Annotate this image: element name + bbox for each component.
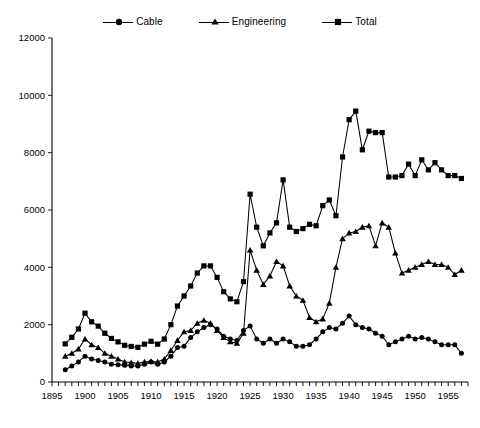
data-point (347, 117, 352, 122)
data-point (267, 230, 272, 235)
data-point (372, 243, 379, 249)
data-point (452, 342, 457, 347)
data-point (194, 320, 201, 326)
data-point (135, 345, 140, 350)
data-point (115, 356, 122, 362)
data-point (399, 270, 406, 276)
data-point (426, 337, 431, 342)
data-point (373, 130, 378, 135)
series-line-total (65, 111, 461, 347)
data-point (446, 173, 451, 178)
y-axis: 020004000600080001000012000 (19, 32, 52, 387)
data-point (459, 176, 464, 181)
data-point (313, 319, 320, 325)
data-point (326, 300, 333, 306)
series-total (63, 109, 464, 350)
data-point (399, 173, 404, 178)
x-tick-label: 1910 (140, 390, 161, 401)
data-point (320, 329, 325, 334)
data-point (76, 359, 81, 364)
y-tick-label: 10000 (19, 90, 45, 101)
data-point (380, 334, 385, 339)
data-point (109, 336, 114, 341)
data-point (379, 220, 386, 226)
data-point (63, 341, 68, 346)
data-series-group (62, 109, 465, 373)
data-point (333, 326, 338, 331)
data-point (155, 342, 160, 347)
data-point (413, 337, 418, 342)
x-tick-label: 1930 (273, 390, 294, 401)
data-point (96, 358, 101, 363)
y-tick-label: 12000 (19, 32, 45, 43)
data-point (366, 223, 373, 229)
x-axis: 1895190019051910191519201925193019351940… (41, 382, 468, 401)
data-point (261, 341, 266, 346)
data-point (82, 336, 89, 342)
data-point (69, 350, 76, 356)
data-point (432, 339, 437, 344)
data-point (175, 303, 180, 308)
data-point (300, 297, 307, 303)
data-point (102, 331, 107, 336)
data-point (406, 162, 411, 167)
data-point (267, 273, 274, 279)
data-point (214, 275, 219, 280)
data-point (108, 353, 115, 359)
data-point (419, 157, 424, 162)
y-tick-label: 6000 (24, 204, 45, 215)
data-point (116, 362, 121, 367)
x-tick-label: 1925 (240, 390, 261, 401)
data-point (347, 314, 352, 319)
data-point (115, 339, 120, 344)
data-point (273, 259, 280, 265)
data-point (181, 293, 186, 298)
data-point (228, 296, 233, 301)
data-point (63, 367, 68, 372)
data-point (122, 343, 127, 348)
data-point (280, 263, 287, 269)
data-point (254, 337, 259, 342)
x-tick-label: 1900 (74, 390, 95, 401)
data-point (419, 335, 424, 340)
data-point (201, 263, 206, 268)
data-point (69, 335, 74, 340)
data-point (392, 250, 399, 256)
data-point (393, 339, 398, 344)
data-point (148, 339, 153, 344)
data-point (168, 322, 173, 327)
data-point (253, 267, 260, 273)
data-point (300, 226, 305, 231)
data-point (195, 329, 200, 334)
data-point (274, 341, 279, 346)
data-point (201, 317, 208, 323)
data-point (399, 337, 404, 342)
data-point (234, 299, 239, 304)
data-point (386, 224, 393, 230)
data-point (286, 283, 293, 289)
data-point (75, 346, 82, 352)
data-point (425, 259, 432, 265)
data-point (439, 167, 444, 172)
data-point (432, 160, 437, 165)
data-point (261, 243, 266, 248)
line-chart: Cable Engineering Total 0200040006000800… (0, 0, 480, 428)
data-point (439, 342, 444, 347)
data-point (287, 225, 292, 230)
data-point (129, 344, 134, 349)
data-point (248, 192, 253, 197)
data-point (207, 320, 214, 326)
data-point (182, 344, 187, 349)
data-point (175, 345, 180, 350)
y-tick-label: 0 (40, 376, 45, 387)
data-point (95, 345, 102, 351)
x-tick-label: 1920 (207, 390, 228, 401)
data-point (459, 351, 464, 356)
data-point (287, 339, 292, 344)
data-point (452, 173, 457, 178)
data-point (109, 362, 114, 367)
data-point (62, 353, 69, 359)
data-point (327, 325, 332, 330)
data-point (319, 316, 326, 322)
data-point (426, 167, 431, 172)
